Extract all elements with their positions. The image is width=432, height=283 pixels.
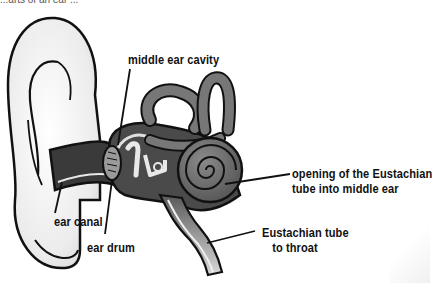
label-eustachian-opening-line1: opening of the Eustachian: [292, 166, 432, 181]
label-middle-ear-cavity: middle ear cavity: [128, 52, 219, 67]
label-eustachian-tube-line2: to throat: [262, 240, 349, 255]
ear-drum-shape: [103, 146, 121, 180]
corner-shadow: [390, 223, 430, 283]
label-ear-canal: ear canal: [54, 214, 103, 229]
label-eustachian-tube: Eustachian tube to throat: [262, 225, 349, 255]
label-eustachian-tube-line1: Eustachian tube: [262, 225, 349, 240]
label-ear-drum: ear drum: [87, 240, 135, 255]
cochlea: [178, 138, 242, 202]
label-eustachian-opening-line2: tube into middle ear: [292, 181, 432, 196]
leader-eustachian-tube: [207, 231, 255, 243]
leader-ear-drum: [105, 180, 112, 234]
label-eustachian-opening: opening of the Eustachian tube into midd…: [292, 166, 432, 196]
